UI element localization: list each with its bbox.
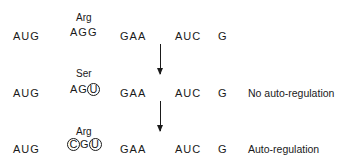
codon-mutated: AGU [70,83,100,96]
codon: AUG [13,143,40,155]
codon: AUG [13,87,40,99]
codon: G [218,87,228,99]
codon: GAA [120,87,146,99]
codon: AUC [175,87,201,99]
codon: AUC [175,143,201,155]
codon: GAA [120,30,146,42]
codon-base: AG [70,83,88,95]
codon: AUC [175,30,201,42]
codon: GAA [120,143,146,155]
codon: AUG [13,30,40,42]
down-arrow [160,44,161,74]
circled-base: U [87,83,100,96]
amino-acid-label: Arg [76,126,92,137]
codon: G [218,143,228,155]
outcome-label: No auto-regulation [248,87,334,99]
circled-base: C [67,138,80,151]
amino-acid-label: Arg [76,12,92,23]
down-arrow [160,101,161,131]
outcome-label: Auto-regulation [248,143,319,155]
codon: AGG [70,26,97,38]
codon-mutated: CGU [68,138,102,151]
codon: G [218,30,228,42]
amino-acid-label: Ser [76,68,92,79]
circled-base: U [89,138,102,151]
